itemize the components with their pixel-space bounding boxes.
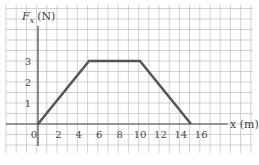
x-axis-label: x (m) bbox=[230, 118, 259, 131]
force-vs-position-chart: 0246810121416123 Fx(N) x (m) bbox=[0, 0, 259, 165]
grid bbox=[6, 5, 253, 153]
y-tick-label: 2 bbox=[25, 77, 31, 88]
y-tick-label: 3 bbox=[25, 56, 31, 67]
x-tick-label: 10 bbox=[134, 129, 147, 140]
x-tick-label: 16 bbox=[195, 129, 208, 140]
x-tick-label: 8 bbox=[116, 129, 122, 140]
y-axis-label: Fx(N) bbox=[21, 10, 55, 25]
x-tick-label: 12 bbox=[154, 129, 167, 140]
tick-labels: 0246810121416123 bbox=[25, 56, 208, 140]
x-tick-label: 6 bbox=[96, 129, 102, 140]
x-tick-label: 2 bbox=[55, 129, 61, 140]
axes bbox=[6, 26, 228, 146]
x-tick-label: 0 bbox=[31, 129, 37, 140]
x-tick-label: 4 bbox=[76, 129, 82, 140]
y-tick-label: 1 bbox=[25, 98, 31, 109]
x-tick-label: 14 bbox=[174, 129, 187, 140]
